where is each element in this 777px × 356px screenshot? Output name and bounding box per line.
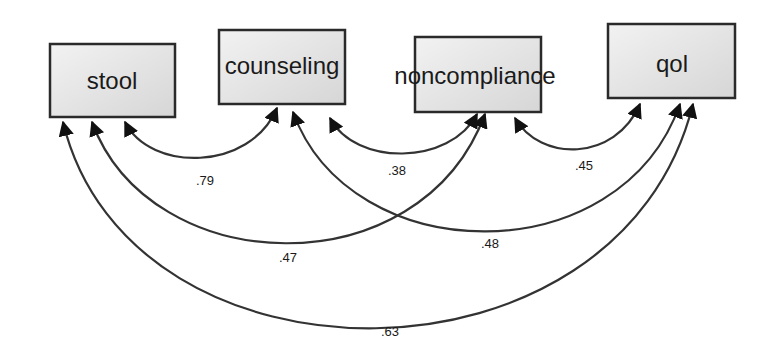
path-diagram: stoolcounselingnoncomplianceqol .79.38.4… [0,0,777,356]
variable-nodes: stoolcounselingnoncomplianceqol [50,24,735,117]
correlation-label-stool-qol: .63 [381,324,399,339]
correlation-label-counseling-qol: .48 [481,236,499,251]
correlation-label-noncompliance-qol: .45 [575,158,593,173]
node-noncompliance: noncompliance [394,37,555,112]
node-counseling: counseling [219,30,345,104]
double-headed-arrow-counseling-noncompliance [330,114,477,154]
node-label-qol: qol [656,50,688,77]
double-headed-arrow-counseling-qol [293,104,680,231]
node-qol: qol [608,24,735,98]
node-label-counseling: counseling [225,52,340,79]
correlation-label-stool-counseling: .79 [196,173,214,188]
node-label-noncompliance: noncompliance [394,62,555,89]
node-stool: stool [50,44,175,117]
node-label-stool: stool [87,67,138,94]
double-headed-arrow-stool-qol [63,104,693,328]
correlation-label-counseling-noncompliance: .38 [388,163,406,178]
correlation-label-stool-noncompliance: .47 [279,250,297,265]
correlation-edges [63,104,693,328]
